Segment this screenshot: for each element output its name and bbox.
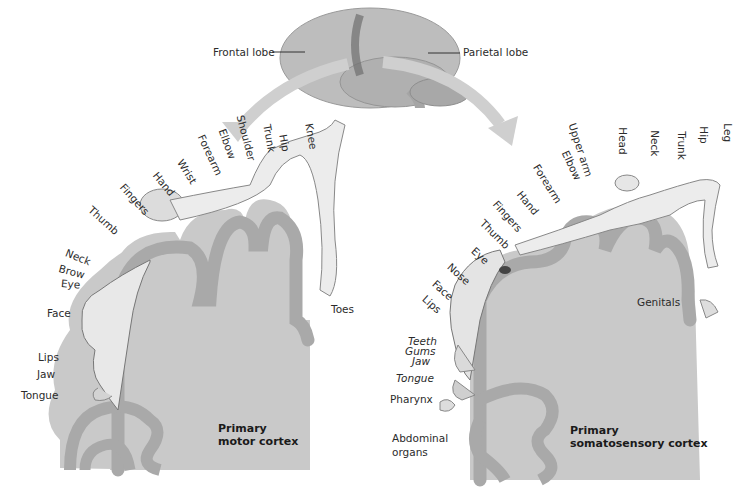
sensory-label-abdominal: Abdominal	[392, 433, 448, 444]
sensory-title-line1: Primary	[570, 424, 708, 437]
motor-label-lips: Lips	[38, 352, 59, 363]
parietal-lobe-label: Parietal lobe	[463, 47, 528, 58]
sensory-label-head: Head	[618, 127, 629, 154]
brain-illustration	[280, 8, 470, 108]
diagram-canvas	[0, 0, 746, 495]
sensory-label-jaw: Jaw	[412, 356, 430, 367]
motor-label-hip: Hip	[278, 133, 291, 152]
sensory-label-tongue: Tongue	[396, 373, 434, 384]
motor-title-line1: Primary	[218, 422, 298, 435]
sensory-title-line2: somatosensory cortex	[570, 437, 708, 450]
sensory-label-trunk: Trunk	[677, 131, 688, 160]
motor-label-face: Face	[47, 308, 71, 319]
sensory-label-neck: Neck	[650, 130, 661, 156]
motor-title-line2: motor cortex	[218, 435, 298, 448]
motor-label-tongue: Tongue	[21, 390, 59, 401]
sensory-label-hip: Hip	[699, 126, 710, 143]
motor-label-toes: Toes	[331, 304, 354, 315]
motor-cortex-title: Primary motor cortex	[218, 422, 298, 448]
sensory-cortex-title: Primary somatosensory cortex	[570, 424, 708, 450]
frontal-lobe-label: Frontal lobe	[213, 47, 275, 58]
motor-label-eye: Eye	[61, 278, 81, 290]
motor-label-jaw: Jaw	[37, 369, 55, 380]
sensory-label-leg: Leg	[723, 123, 734, 142]
sensory-label-organs: organs	[392, 447, 428, 458]
sensory-label-pharynx: Pharynx	[390, 394, 433, 405]
sensory-label-genitals: Genitals	[637, 297, 680, 308]
